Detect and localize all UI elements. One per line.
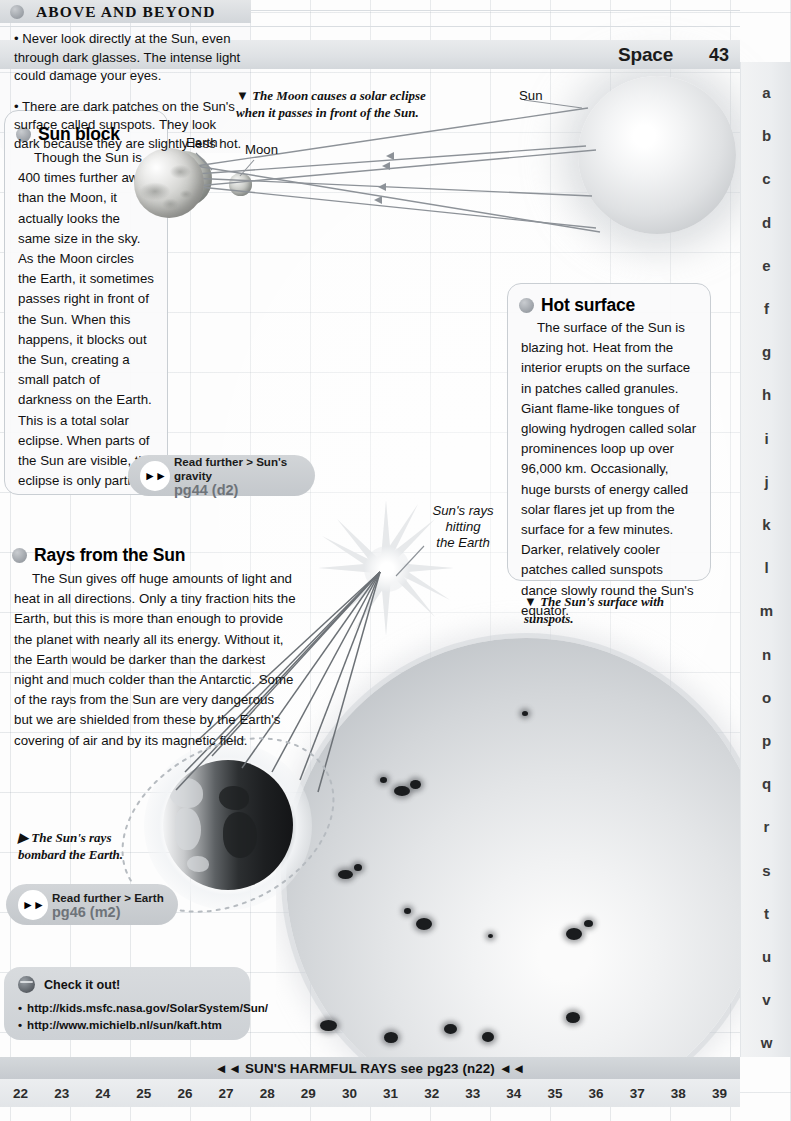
- hot-surface-title-text: Hot surface: [541, 295, 635, 315]
- footer-page-26[interactable]: 26: [164, 1086, 205, 1101]
- sunspot: [410, 780, 421, 789]
- sunspot: [584, 920, 593, 927]
- alphabet-index-k[interactable]: k: [741, 516, 791, 533]
- alphabet-index-g[interactable]: g: [741, 343, 791, 360]
- footer-page-30[interactable]: 30: [329, 1086, 370, 1101]
- alphabet-index-w[interactable]: w: [741, 1034, 791, 1051]
- encyclopedia-page: Space 43 abcdefghijklmnopqrstuvw ▼ The M…: [0, 0, 791, 1121]
- bullet-dot-icon: [12, 548, 27, 563]
- footer-page-28[interactable]: 28: [247, 1086, 288, 1101]
- alphabet-index-d[interactable]: d: [741, 214, 791, 231]
- alphabet-index-t[interactable]: t: [741, 905, 791, 922]
- alphabet-index-m[interactable]: m: [741, 602, 791, 619]
- footer-page-index[interactable]: 222324252627282930313233343536373839: [0, 1079, 740, 1107]
- alphabet-index-j[interactable]: j: [741, 473, 791, 490]
- rays-bombard-caption: ▶ The Sun's rays bombard the Earth.: [18, 830, 148, 863]
- sunspot: [566, 928, 582, 940]
- caption-text: The Sun's rays bombard the Earth.: [18, 830, 123, 862]
- rays-body: The Sun gives off huge amounts of light …: [14, 569, 296, 751]
- alphabet-index-q[interactable]: q: [741, 775, 791, 792]
- earth-globe: [163, 760, 293, 890]
- sunspot: [354, 864, 362, 871]
- alphabet-index-c[interactable]: c: [741, 170, 791, 187]
- page-number: 43: [709, 45, 729, 66]
- above-and-beyond-box: ABOVE AND BEYOND • Never look directly a…: [0, 0, 251, 153]
- footer-cross-reference-band[interactable]: ◄◄ SUN'S HARMFUL RAYS see pg23 (n22) ◄◄: [0, 1057, 740, 1079]
- rays-title: Rays from the Sun: [12, 545, 296, 566]
- sunspot: [320, 1020, 337, 1031]
- alphabet-index-h[interactable]: h: [741, 386, 791, 403]
- footer-page-35[interactable]: 35: [534, 1086, 575, 1101]
- alphabet-index-i[interactable]: i: [741, 430, 791, 447]
- above-and-beyond-item: • There are dark patches on the Sun's su…: [14, 98, 242, 154]
- read-further-sun-gravity-button[interactable]: ►► Read further > Sun's gravity pg44 (d2…: [128, 455, 315, 496]
- check-it-out-title: Check it out!: [44, 978, 120, 992]
- above-and-beyond-title: ABOVE AND BEYOND: [36, 3, 216, 21]
- alphabet-index-f[interactable]: f: [741, 300, 791, 317]
- hot-surface-title: Hot surface: [519, 295, 697, 316]
- alphabet-index-u[interactable]: u: [741, 948, 791, 965]
- sun-surface-photo: [276, 600, 740, 1057]
- footer-page-22[interactable]: 22: [0, 1086, 41, 1101]
- top-rule-2: [0, 26, 740, 27]
- footer-page-39[interactable]: 39: [699, 1086, 740, 1101]
- footer-page-27[interactable]: 27: [206, 1086, 247, 1101]
- footer-page-31[interactable]: 31: [370, 1086, 411, 1101]
- alphabet-index-s[interactable]: s: [741, 862, 791, 879]
- footer-page-24[interactable]: 24: [82, 1086, 123, 1101]
- alphabet-index-e[interactable]: e: [741, 257, 791, 274]
- alphabet-index-o[interactable]: o: [741, 689, 791, 706]
- above-and-beyond-items: • Never look directly at the Sun, even t…: [14, 30, 242, 166]
- label-sun: Sun: [519, 88, 542, 103]
- alphabet-index-rail[interactable]: abcdefghijklmnopqrstuvw: [740, 62, 791, 1057]
- read-further-earth-button[interactable]: ►► Read further > Earth pg46 (m2): [6, 884, 178, 925]
- footer-page-32[interactable]: 32: [411, 1086, 452, 1101]
- rays-label-line: the Earth: [428, 535, 498, 551]
- footer-page-37[interactable]: 37: [617, 1086, 658, 1101]
- bullet-glyph: •: [18, 1018, 22, 1031]
- alphabet-index-r[interactable]: r: [741, 818, 791, 835]
- eclipse-caption: ▼ The Moon causes a solar eclipse when i…: [236, 88, 436, 121]
- double-arrow-icon: ►►: [140, 461, 170, 491]
- bullet-dot-icon: [10, 5, 24, 19]
- alphabet-index-a[interactable]: a: [741, 84, 791, 101]
- sun-sphere-diagram: [578, 76, 736, 234]
- footer-page-23[interactable]: 23: [41, 1086, 82, 1101]
- check-it-out-link[interactable]: •http://www.michielb.nl/sun/kaft.htm: [18, 1016, 238, 1033]
- alphabet-index-p[interactable]: p: [741, 732, 791, 749]
- read-further-labels: Read further > Sun's gravity pg44 (d2): [174, 455, 315, 497]
- check-it-out-header: Check it out!: [18, 976, 238, 993]
- sunspot: [384, 1032, 398, 1043]
- sunspot: [482, 1032, 494, 1042]
- ray-burst-core: [364, 546, 410, 592]
- footer-page-29[interactable]: 29: [288, 1086, 329, 1101]
- above-and-beyond-header: ABOVE AND BEYOND: [0, 0, 251, 23]
- sun-surface-caption: ▼ The Sun's surface with sunspots.: [524, 594, 674, 627]
- rays-from-the-sun-section: Rays from the Sun The Sun gives off huge…: [14, 545, 296, 751]
- alphabet-index-l[interactable]: l: [741, 559, 791, 576]
- footer-page-25[interactable]: 25: [123, 1086, 164, 1101]
- rays-title-text: Rays from the Sun: [34, 545, 185, 565]
- check-it-out-link[interactable]: •http://kids.msfc.nasa.gov/SolarSystem/S…: [18, 999, 238, 1016]
- alphabet-index-n[interactable]: n: [741, 646, 791, 663]
- read-further-title: Read further > Earth: [52, 891, 164, 905]
- alphabet-index-b[interactable]: b: [741, 127, 791, 144]
- sunspot: [444, 1024, 457, 1034]
- sun-disc: [286, 638, 740, 1057]
- hot-surface-body: The surface of the Sun is blazing hot. H…: [521, 318, 697, 621]
- footer-page-38[interactable]: 38: [658, 1086, 699, 1101]
- footer-page-36[interactable]: 36: [576, 1086, 617, 1101]
- sunspot: [488, 934, 493, 938]
- footer-page-33[interactable]: 33: [452, 1086, 493, 1101]
- bullet-glyph: •: [18, 1001, 22, 1014]
- read-further-labels: Read further > Earth pg46 (m2): [52, 891, 164, 919]
- above-and-beyond-item: • Never look directly at the Sun, even t…: [14, 30, 242, 86]
- sunspot: [404, 908, 411, 914]
- alphabet-index-v[interactable]: v: [741, 991, 791, 1008]
- read-further-page: pg44 (d2): [174, 483, 315, 497]
- footer-page-34[interactable]: 34: [493, 1086, 534, 1101]
- rays-label-line: hitting: [428, 519, 498, 535]
- bullet-dot-icon: [519, 298, 534, 313]
- sunspot: [566, 1012, 580, 1023]
- globe-icon: [18, 976, 35, 993]
